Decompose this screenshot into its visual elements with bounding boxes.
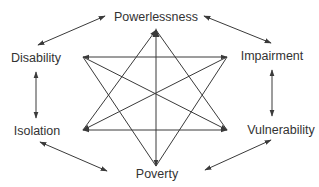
cycle-of-deprivation-diagram: Powerlessness Impairment Vulnerability P… <box>0 0 319 187</box>
node-isolation: Isolation <box>14 124 61 138</box>
node-vulnerability: Vulnerability <box>247 123 315 137</box>
node-impairment: Impairment <box>241 49 304 63</box>
node-powerlessness: Powerlessness <box>114 10 198 24</box>
arrow-powerlessness-impairment <box>204 16 271 43</box>
arrow-vulnerability-poverty <box>205 140 271 170</box>
edge-upper-right-bottom <box>156 57 227 166</box>
node-poverty: Poverty <box>136 167 179 181</box>
node-disability: Disability <box>11 51 62 65</box>
inner-star <box>83 28 227 166</box>
edge-top-lower-left <box>83 30 156 130</box>
arrow-poverty-isolation <box>40 142 107 171</box>
top-arrowhead-icon <box>153 28 160 37</box>
edge-top-lower-right <box>156 30 227 130</box>
arrow-disability-powerlessness <box>38 16 105 45</box>
